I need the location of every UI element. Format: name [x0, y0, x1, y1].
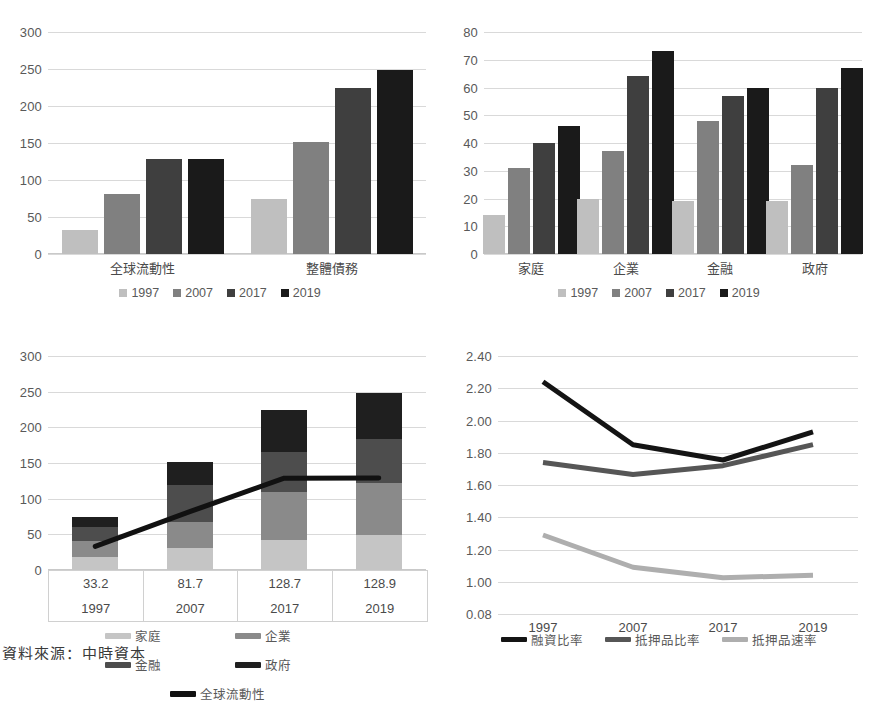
legend-item: 融資比率 — [501, 630, 583, 649]
y-axis-tick-label: 2.00 — [440, 413, 492, 428]
y-axis-tick-label: 50 — [440, 108, 478, 123]
line-series — [543, 445, 813, 475]
plot-area-bottom-right — [498, 356, 858, 614]
data-table-bottom-left: 33.281.7128.7128.91997200720172019 — [48, 570, 428, 622]
bar — [602, 151, 624, 254]
table-cell: 2019 — [333, 596, 428, 621]
legend-item: 2007 — [173, 286, 213, 300]
legend-swatch — [105, 662, 131, 668]
y-axis-tick-label: 40 — [440, 136, 478, 151]
legend-swatch — [105, 633, 131, 639]
legend-swatch — [173, 289, 181, 297]
bar — [722, 96, 744, 254]
legend-item: 全球流動性 — [170, 684, 270, 703]
x-axis-category-label: 全球流動性 — [48, 258, 237, 277]
y-axis-tick-label: 2.20 — [440, 381, 492, 396]
line-series — [543, 535, 813, 578]
bar — [483, 215, 505, 254]
chart-panel-top-right: 家庭企業金融政府 1997200720172019 01020304050607… — [440, 0, 878, 330]
legend-swatch — [119, 289, 127, 297]
bar — [188, 159, 224, 254]
y-axis-tick-label: 250 — [0, 62, 42, 77]
y-axis-tick-label: 200 — [0, 420, 42, 435]
legend-swatch — [612, 289, 620, 297]
plot-area-top-left — [48, 32, 426, 254]
legend-item: 1997 — [119, 286, 159, 300]
gridline — [484, 254, 862, 255]
y-axis-tick-label: 1.20 — [440, 542, 492, 557]
x-axis-category-label: 整體債務 — [237, 258, 426, 277]
bar — [791, 165, 813, 254]
bar — [251, 199, 287, 255]
legend-label: 抵押品比率 — [635, 630, 700, 649]
legend-swatch — [666, 289, 674, 297]
y-axis-tick-label: 1.80 — [440, 445, 492, 460]
y-axis-tick-label: 1.40 — [440, 510, 492, 525]
y-axis-tick-label: 0.08 — [440, 607, 492, 622]
line-series-group — [498, 356, 858, 614]
legend-swatch — [558, 289, 566, 297]
legend-item: 2019 — [720, 286, 760, 300]
table-cell: 128.7 — [238, 571, 333, 596]
table-cell: 2007 — [144, 596, 239, 621]
legend-label: 全球流動性 — [200, 684, 265, 703]
legend-swatch — [605, 637, 631, 642]
gridline — [484, 32, 862, 33]
legend-label: 2017 — [239, 286, 267, 300]
bar — [577, 199, 599, 255]
legend-item: 1997 — [558, 286, 598, 300]
chart-panel-bottom-left: 33.281.7128.7128.91997200720172019 家庭企業金… — [0, 330, 440, 654]
y-axis-tick-label: 70 — [440, 52, 478, 67]
legend-swatch — [170, 691, 196, 697]
y-axis-tick-label: 300 — [0, 349, 42, 364]
y-axis-tick-label: 60 — [440, 80, 478, 95]
bar — [104, 194, 140, 254]
legend-swatch — [501, 637, 527, 642]
y-axis-tick-label: 30 — [440, 163, 478, 178]
bar — [62, 230, 98, 254]
bar — [335, 88, 371, 254]
y-axis-tick-label: 150 — [0, 456, 42, 471]
legend-label: 1997 — [131, 286, 159, 300]
gridline — [498, 614, 858, 615]
legend-swatch — [227, 289, 235, 297]
gridline — [48, 32, 426, 33]
legend-item: 政府 — [235, 655, 335, 674]
legend-label: 1997 — [570, 286, 598, 300]
legend-swatch — [722, 637, 748, 642]
legend-label: 融資比率 — [531, 630, 583, 649]
legend-swatch — [235, 662, 261, 668]
y-axis-tick-label: 0 — [0, 247, 42, 262]
bar — [766, 201, 788, 254]
table-cell: 2017 — [238, 596, 333, 621]
legend-item: 抵押品比率 — [605, 630, 700, 649]
bar — [533, 143, 555, 254]
y-axis-tick-label: 1.60 — [440, 478, 492, 493]
table-row: 33.281.7128.7128.9 — [49, 571, 427, 596]
bar — [672, 201, 694, 254]
y-axis-tick-label: 50 — [0, 210, 42, 225]
y-axis-tick-label: 250 — [0, 384, 42, 399]
legend-label: 2019 — [732, 286, 760, 300]
overlay-line-series — [48, 356, 426, 570]
y-axis-tick-label: 80 — [440, 25, 478, 40]
y-axis-tick-label: 100 — [0, 173, 42, 188]
table-cell: 128.9 — [333, 571, 428, 596]
chart-panel-bottom-right: 1997200720172019 融資比率抵押品比率抵押品速率 0.081.00… — [440, 330, 878, 654]
bar — [377, 70, 413, 254]
y-axis-tick-label: 300 — [0, 25, 42, 40]
bar — [697, 121, 719, 254]
legend-label: 2017 — [678, 286, 706, 300]
legend-label: 2019 — [293, 286, 321, 300]
bar — [627, 76, 649, 254]
legend-item: 2019 — [281, 286, 321, 300]
legend-top-right: 1997200720172019 — [440, 286, 878, 300]
legend-item: 抵押品速率 — [722, 630, 817, 649]
y-axis-tick-label: 10 — [440, 219, 478, 234]
legend-bottom-right: 融資比率抵押品比率抵押品速率 — [440, 630, 878, 649]
table-row: 1997200720172019 — [49, 596, 427, 621]
bar — [146, 159, 182, 254]
gridline — [48, 69, 426, 70]
bar — [293, 142, 329, 254]
